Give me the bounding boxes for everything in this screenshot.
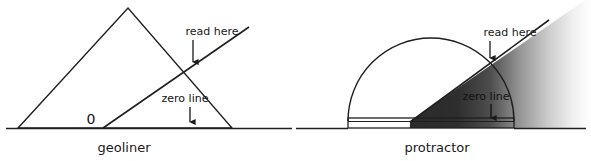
caption-geoliner: geoliner <box>97 140 151 155</box>
zero-line-label-protractor: zero line <box>463 90 510 103</box>
zero-line-label-geoliner: zero line <box>162 92 209 105</box>
caption-protractor: protractor <box>404 140 470 155</box>
panel-protractor: read here zero line protractor <box>296 0 591 155</box>
panel-geoliner: 0 read here zero line geoliner <box>0 0 292 155</box>
read-here-label-protractor: read here <box>483 26 536 39</box>
figure-canvas: 0 read here zero line geoliner read here <box>0 0 591 161</box>
read-here-label-geoliner: read here <box>185 25 238 38</box>
illustration-svg: 0 read here zero line geoliner read here <box>0 0 591 161</box>
zero-mark-label-geoliner: 0 <box>87 111 96 127</box>
